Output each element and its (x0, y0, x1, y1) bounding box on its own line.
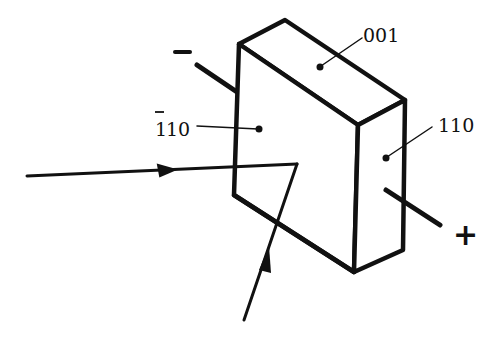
label-110: 110 (438, 114, 474, 136)
svg-text:10: 10 (166, 118, 190, 140)
dot-110bar (256, 126, 263, 133)
negative-electrode-wire (197, 65, 237, 92)
dot-110 (383, 155, 390, 162)
positive-sign: + (453, 217, 478, 252)
arrow-head-bottom (259, 246, 271, 273)
label-110bar: 1 10 (155, 112, 190, 140)
arrow-head-horizontal (157, 163, 179, 178)
label-001: 001 (363, 24, 399, 46)
crystal-block (234, 20, 405, 272)
dot-001 (317, 64, 324, 71)
crystal-diagram: 001 1 10 110 + (0, 0, 501, 348)
side-face-110 (354, 100, 405, 272)
